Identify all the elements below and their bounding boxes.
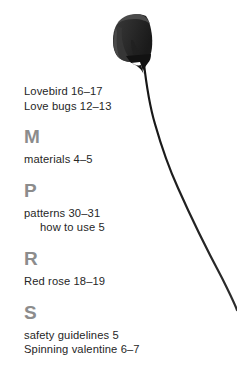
index-group-r: R Red rose 18–19 bbox=[24, 249, 174, 289]
letter-heading-m: M bbox=[24, 127, 174, 146]
index-group-m: M materials 4–5 bbox=[24, 127, 174, 167]
letter-heading-wrap: R bbox=[24, 249, 174, 268]
letter-heading-wrap: S bbox=[24, 303, 174, 322]
index-entry: Love bugs 12–13 bbox=[24, 99, 174, 114]
index-column: Lovebird 16–17 Love bugs 12–13 M materia… bbox=[24, 84, 174, 357]
index-entry: materials 4–5 bbox=[24, 152, 174, 167]
index-entry: Spinning valentine 6–7 bbox=[24, 342, 174, 357]
letter-heading-p: P bbox=[24, 181, 174, 200]
index-entry: safety guidelines 5 bbox=[24, 328, 174, 343]
index-entry: Red rose 18–19 bbox=[24, 274, 174, 289]
index-entry: patterns 30–31 bbox=[24, 206, 174, 221]
index-entry: Lovebird 16–17 bbox=[24, 84, 174, 99]
index-group-p: P patterns 30–31 how to use 5 bbox=[24, 181, 174, 235]
letter-heading-wrap: P bbox=[24, 181, 174, 200]
letter-heading-r: R bbox=[24, 249, 174, 268]
index-page: Lovebird 16–17 Love bugs 12–13 M materia… bbox=[0, 0, 237, 392]
letter-heading-wrap: M bbox=[24, 127, 174, 146]
index-continued-entries: Lovebird 16–17 Love bugs 12–13 bbox=[24, 84, 174, 113]
letter-heading-s: S bbox=[24, 303, 174, 322]
index-subentry: how to use 5 bbox=[24, 220, 174, 235]
index-group-s: S safety guidelines 5 Spinning valentine… bbox=[24, 303, 174, 357]
flower-bloom bbox=[113, 14, 152, 74]
